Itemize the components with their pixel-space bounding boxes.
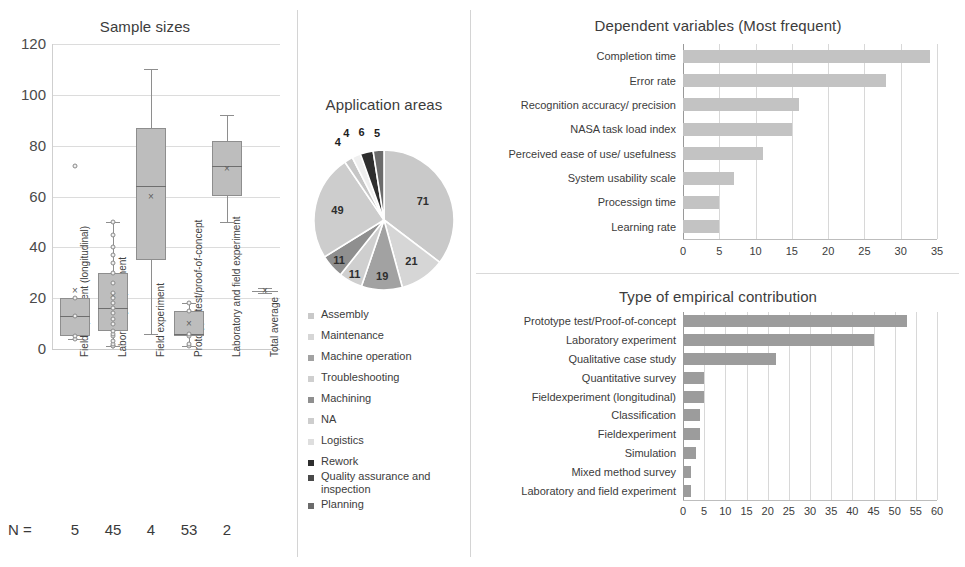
bar-x-tick-label: 50 [889, 505, 901, 517]
bar-x-tick-label: 0 [680, 245, 686, 257]
application-areas-title: Application areas [298, 96, 470, 113]
bar-row[interactable]: Simulation [683, 444, 937, 463]
sample-size-n-value: 5 [71, 521, 79, 538]
bar-x-tick-label: 10 [719, 505, 731, 517]
bar-x-tick-label: 30 [804, 505, 816, 517]
bar-rect [683, 391, 704, 403]
bar-x-tick-label: 55 [910, 505, 922, 517]
bar-rect [683, 447, 696, 459]
pie-legend-swatch [308, 475, 314, 481]
pie-legend-item[interactable]: Machine operation [308, 350, 468, 363]
bar-row[interactable]: System usability scale [683, 166, 937, 190]
pie-legend-label: Assembly [321, 308, 369, 321]
bar-row[interactable]: Error rate [683, 68, 937, 92]
bar-rect [683, 353, 776, 365]
dependent-variables-chart: Dependent variables (Most frequent) 0510… [471, 0, 965, 273]
pie-legend-swatch [308, 460, 314, 466]
bar-gridline [937, 312, 938, 500]
bar-row[interactable]: Recognition accuracy/ precision [683, 93, 937, 117]
bar-row[interactable]: Qualitative case study [683, 350, 937, 369]
boxplot-y-tick-label: 40 [4, 238, 46, 255]
bar-x-tick-label: 35 [825, 505, 837, 517]
pie-legend-item[interactable]: Machining [308, 392, 468, 405]
bar-row[interactable]: Classification [683, 406, 937, 425]
bar-category-label: Error rate [630, 76, 683, 87]
pie-legend-swatch [308, 418, 314, 424]
pie-legend-item[interactable]: NA [308, 413, 468, 426]
bar-category-label: Simulation [625, 448, 683, 459]
bar-category-label: Learning rate [611, 222, 683, 233]
bar-category-label: Laboratory experiment [566, 335, 683, 346]
boxplot-y-tick-label: 0 [4, 340, 46, 357]
pie-legend-item[interactable]: Maintenance [308, 329, 468, 342]
bar-x-tick-label: 25 [783, 505, 795, 517]
bar-x-tick-label: 35 [931, 245, 943, 257]
bar-category-label: Recognition accuracy/ precision [521, 100, 683, 111]
pie-legend-label: Machining [321, 392, 371, 405]
bar-row[interactable]: Processign time [683, 190, 937, 214]
bar-rect [683, 334, 874, 346]
bar-x-tick-label: 20 [762, 505, 774, 517]
sample-size-n-row: N = 5454532 [0, 521, 290, 541]
bar-rect [683, 372, 704, 384]
application-areas-chart: Application areas 7121191111494465 Assem… [298, 0, 470, 567]
bar-row[interactable]: Completion time [683, 44, 937, 68]
bar-row[interactable]: Mixed method survey [683, 462, 937, 481]
pie-legend-swatch [308, 355, 314, 361]
bar-row[interactable]: Perceived ease of use/ usefulness [683, 142, 937, 166]
pie-slice-value-label: 21 [405, 255, 417, 267]
pie-legend-item[interactable]: Rework [308, 455, 468, 468]
sample-sizes-title: Sample sizes [0, 18, 290, 35]
bar-category-label: Quantitative survey [582, 373, 683, 384]
bar-x-tick-label: 15 [786, 245, 798, 257]
bar-rect [683, 196, 719, 209]
bar-rect [683, 466, 691, 478]
bar-row[interactable]: Learning rate [683, 215, 937, 239]
pie-slice-value-label: 11 [333, 254, 345, 266]
sample-size-n-value: 45 [105, 521, 122, 538]
bar-category-label: Perceived ease of use/ usefulness [508, 149, 683, 160]
n-equals-label: N = [8, 521, 32, 538]
sample-sizes-chart: Sample sizes 020406080100120Fieldexperim… [0, 0, 297, 567]
pie-legend-item[interactable]: Planning [308, 498, 468, 511]
bar-category-label: Qualitative case study [568, 354, 683, 365]
pie-slice-value-label: 6 [358, 126, 364, 138]
bar-row[interactable]: Prototype test/Proof-of-concept [683, 312, 937, 331]
bar-category-label: Mixed method survey [571, 467, 683, 478]
bar-baseline [683, 500, 937, 501]
dependent-variables-title: Dependent variables (Most frequent) [471, 17, 965, 34]
bar-rect [683, 485, 691, 497]
pie-legend-item[interactable]: Quality assurance and inspection [308, 470, 468, 496]
pie-legend-swatch [308, 397, 314, 403]
pie-graphic: 7121191111494465 [314, 150, 454, 290]
pie-legend-label: Rework [321, 455, 358, 468]
bar-x-tick-label: 15 [740, 505, 752, 517]
bar-row[interactable]: Fieldexperiment (longitudinal) [683, 387, 937, 406]
sample-size-n-value: 53 [181, 521, 198, 538]
bar-rect [683, 409, 700, 421]
bar-category-label: System usability scale [568, 173, 683, 184]
bar-row[interactable]: Laboratory experiment [683, 331, 937, 350]
pie-legend-item[interactable]: Assembly [308, 308, 468, 321]
bar-category-label: Fieldexperiment [598, 429, 683, 440]
bar-x-tick-label: 5 [701, 505, 707, 517]
pie-legend-label: Logistics [321, 434, 364, 447]
pie-slice-value-label: 11 [349, 268, 361, 280]
bar-category-label: NASA task load index [570, 124, 683, 135]
bar-rect [683, 220, 719, 233]
bar-row[interactable]: NASA task load index [683, 117, 937, 141]
bar-row[interactable]: Fieldexperiment [683, 425, 937, 444]
empirical-contribution-chart: Type of empirical contribution 051015202… [471, 274, 965, 567]
pie-legend-item[interactable]: Logistics [308, 434, 468, 447]
bar-category-label: Completion time [597, 51, 683, 62]
bar-row[interactable]: Quantitative survey [683, 368, 937, 387]
sample-size-n-value: 4 [147, 521, 155, 538]
pie-legend-label: Machine operation [321, 350, 412, 363]
pie-legend-label: Troubleshooting [321, 371, 399, 384]
bar-x-tick-label: 5 [716, 245, 722, 257]
bar-rect [683, 74, 886, 87]
bar-row[interactable]: Laboratory and field experiment [683, 481, 937, 500]
boxplot-y-tick-label: 120 [4, 35, 46, 52]
bar-gridline [937, 44, 938, 239]
pie-legend-item[interactable]: Troubleshooting [308, 371, 468, 384]
